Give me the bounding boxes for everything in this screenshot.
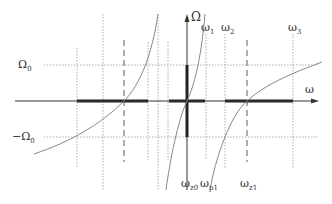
w1-label: ω1: [201, 22, 214, 33]
wp1-symbol: ω: [200, 177, 209, 190]
w2-label: ω2: [221, 22, 234, 33]
x-axis-label: ω: [305, 84, 314, 95]
w2-symbol: ω: [221, 21, 230, 34]
w1-sub: 1: [210, 28, 214, 36]
w3-symbol: ω: [288, 21, 297, 34]
wp1-sub: p1: [209, 184, 218, 192]
w2-sub: 2: [230, 28, 234, 36]
wz0-symbol: ω: [181, 177, 190, 190]
omega0-neg-label: −Ω0: [12, 131, 35, 142]
y-axis-arrow-icon: [185, 14, 190, 22]
wz1-label: ωz1: [240, 178, 257, 189]
w3-sub: 3: [297, 28, 301, 36]
omega0-neg-symbol: −Ω: [12, 130, 30, 143]
wz0-sub: z0: [190, 184, 198, 192]
x-axis-symbol: ω: [305, 83, 314, 96]
w1-symbol: ω: [201, 21, 210, 34]
frequency-mapping-diagram: [0, 0, 332, 204]
w3-label: ω3: [288, 22, 301, 33]
y-axis-label: Ω: [191, 11, 201, 23]
omega0-pos-sub: 0: [27, 65, 31, 73]
wp1-label: ωp1: [200, 178, 218, 189]
omega0-pos-symbol: Ω: [18, 58, 27, 71]
omega0-pos-label: Ω0: [18, 59, 32, 70]
y-axis-symbol: Ω: [191, 10, 201, 24]
wz1-symbol: ω: [240, 177, 249, 190]
wz1-sub: z1: [249, 184, 257, 192]
x-axis-arrow-icon: [311, 99, 319, 104]
wz0-label: ωz0: [181, 178, 198, 189]
omega0-neg-sub: 0: [30, 137, 34, 145]
